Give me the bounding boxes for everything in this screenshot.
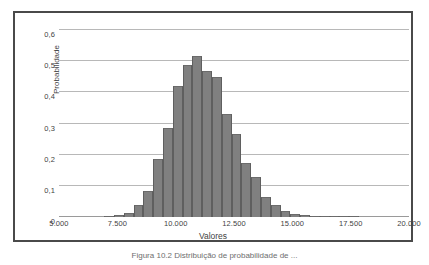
histogram-bar bbox=[261, 197, 271, 217]
histogram-bar bbox=[271, 205, 281, 217]
histogram-bar bbox=[153, 159, 163, 217]
x-axis-ticks: 5.0007.50010.00012.50015.00017.50020.000 bbox=[59, 219, 409, 231]
histogram-bar bbox=[339, 216, 349, 217]
figure-caption: Figura 10.2 Distribuição de probabilidad… bbox=[0, 251, 429, 260]
x-tick-label: 12.500 bbox=[222, 219, 246, 228]
bar-series bbox=[59, 30, 409, 217]
histogram-bar bbox=[320, 216, 330, 217]
histogram-bar bbox=[232, 134, 242, 217]
histogram-bar bbox=[163, 128, 173, 217]
y-axis-ticks: 00,10,20,30,40,50,6 bbox=[29, 30, 55, 217]
histogram-bar bbox=[212, 77, 222, 217]
histogram-bar bbox=[330, 216, 340, 217]
x-tick-label: 7.500 bbox=[108, 219, 127, 228]
histogram-bar bbox=[241, 163, 251, 217]
plot-area bbox=[59, 30, 409, 217]
histogram-chart: Probabilidade 00,10,20,30,40,50,6 5.0007… bbox=[15, 13, 411, 240]
histogram-bar bbox=[143, 191, 153, 217]
histogram-bar bbox=[349, 216, 359, 217]
histogram-bar bbox=[183, 65, 193, 217]
histogram-bar bbox=[251, 177, 261, 217]
x-tick-label: 10.000 bbox=[164, 219, 188, 228]
x-axis-label: Valores bbox=[15, 231, 411, 241]
histogram-bar bbox=[124, 213, 134, 217]
x-tick-label: 5.000 bbox=[49, 219, 68, 228]
histogram-bar bbox=[173, 86, 183, 217]
histogram-bar bbox=[104, 216, 114, 217]
x-tick-label: 15.000 bbox=[281, 219, 305, 228]
histogram-bar bbox=[281, 211, 291, 217]
figure-page: Probabilidade 00,10,20,30,40,50,6 5.0007… bbox=[0, 0, 429, 265]
figure-frame: Probabilidade 00,10,20,30,40,50,6 5.0007… bbox=[13, 11, 413, 242]
histogram-bar bbox=[202, 71, 212, 217]
histogram-bar bbox=[192, 56, 202, 217]
histogram-bar bbox=[290, 214, 300, 217]
histogram-bar bbox=[114, 215, 124, 217]
x-tick-label: 20.000 bbox=[397, 219, 421, 228]
histogram-bar bbox=[310, 216, 320, 217]
x-tick-label: 17.500 bbox=[339, 219, 363, 228]
histogram-bar bbox=[222, 114, 232, 217]
histogram-bar bbox=[300, 215, 310, 217]
histogram-bar bbox=[134, 205, 144, 217]
